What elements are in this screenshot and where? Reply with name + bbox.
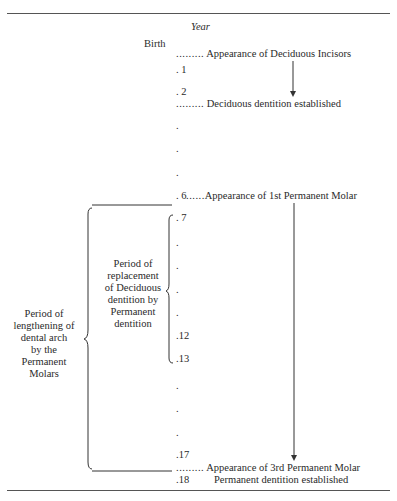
brace-replacement [166,215,173,363]
brace-lengthening [84,208,92,469]
diagram-lines [0,0,397,501]
arrowhead-molar [291,455,297,461]
arrowhead-deciduous [290,91,296,97]
